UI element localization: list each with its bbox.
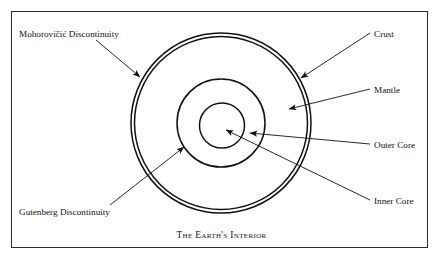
label-mantle: Mantle [374,85,400,95]
label-inner-core: Inner Core [374,196,414,206]
leader-gutenberg [110,147,184,205]
label-crust: Crust [374,29,394,39]
inner-core-circle [200,103,245,148]
outer-core-circle [177,79,265,167]
moho-circle [135,37,308,210]
earth-interior-diagram [0,0,443,265]
leader-moho [96,40,140,77]
leader-crust [301,33,370,78]
label-gutenberg-discontinuity: Gutenberg Discontinuity [19,207,110,217]
label-outer-core: Outer Core [374,140,415,150]
label-mohorovicic-discontinuity: Mohorovičić Discontinuity [19,29,119,39]
figure-canvas: Mohorovičić Discontinuity Gutenberg Disc… [0,0,443,265]
leader-inner-core [226,130,370,200]
figure-caption: The Earth's Interior [0,230,443,240]
crust-outer-circle [131,33,311,213]
